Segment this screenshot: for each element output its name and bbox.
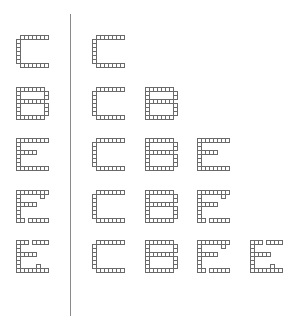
- grid-cell: [258, 240, 263, 245]
- grid-cell: [32, 150, 37, 155]
- grid-cell: [120, 115, 125, 120]
- row-4-glyph-2: [145, 190, 179, 224]
- row-5-glyph-4: [250, 240, 284, 274]
- vertical-divider-line: [70, 14, 71, 316]
- row-3-glyph-1: [92, 138, 126, 172]
- grid-cell: [120, 35, 125, 40]
- grid-cell: [120, 138, 125, 143]
- row-1-glyph-1: [92, 35, 126, 69]
- grid-cell: [44, 240, 49, 245]
- grid-cell: [120, 166, 125, 171]
- row-3-glyph-2: [145, 138, 179, 172]
- grid-cell: [201, 268, 206, 273]
- grid-cell: [44, 138, 49, 143]
- grid-cell: [120, 268, 125, 273]
- grid-cell: [225, 268, 230, 273]
- grid-cell: [120, 218, 125, 223]
- grid-cell: [169, 268, 174, 273]
- grid-cell: [44, 268, 49, 273]
- grid-cell: [120, 240, 125, 245]
- grid-cell: [278, 268, 283, 273]
- grid-cell: [44, 218, 49, 223]
- reference-glyph-e2: [16, 190, 50, 224]
- grid-cell: [40, 194, 45, 199]
- grid-cell: [32, 202, 37, 207]
- grid-cell: [213, 252, 218, 257]
- grid-cell: [213, 150, 218, 155]
- grid-cell: [120, 190, 125, 195]
- grid-cell: [44, 35, 49, 40]
- row-2-glyph-1: [92, 87, 126, 121]
- grid-cell: [40, 115, 45, 120]
- grid-cell: [221, 244, 226, 249]
- grid-cell: [225, 166, 230, 171]
- grid-cell: [213, 202, 218, 207]
- grid-cell: [32, 252, 37, 257]
- grid-cell: [201, 218, 206, 223]
- row-5-glyph-1: [92, 240, 126, 274]
- grid-cell: [169, 115, 174, 120]
- grid-cell: [20, 218, 25, 223]
- grid-cell: [225, 218, 230, 223]
- reference-glyph-c: [16, 35, 50, 69]
- row-5-glyph-3: [197, 240, 231, 274]
- grid-cell: [266, 252, 271, 257]
- row-4-glyph-3: [197, 190, 231, 224]
- grid-cell: [44, 166, 49, 171]
- row-5-glyph-2: [145, 240, 179, 274]
- grid-cell: [169, 166, 174, 171]
- grid-cell: [278, 240, 283, 245]
- grid-cell: [169, 218, 174, 223]
- row-2-glyph-2: [145, 87, 179, 121]
- grid-cell: [225, 138, 230, 143]
- row-3-glyph-3: [197, 138, 231, 172]
- grid-cell: [120, 87, 125, 92]
- row-4-glyph-1: [92, 190, 126, 224]
- reference-glyph-e3: [16, 240, 50, 274]
- grid-cell: [24, 240, 29, 245]
- grid-cell: [221, 194, 226, 199]
- grid-cell: [120, 63, 125, 68]
- reference-glyph-b: [16, 87, 50, 121]
- grid-cell: [44, 63, 49, 68]
- reference-glyph-e: [16, 138, 50, 172]
